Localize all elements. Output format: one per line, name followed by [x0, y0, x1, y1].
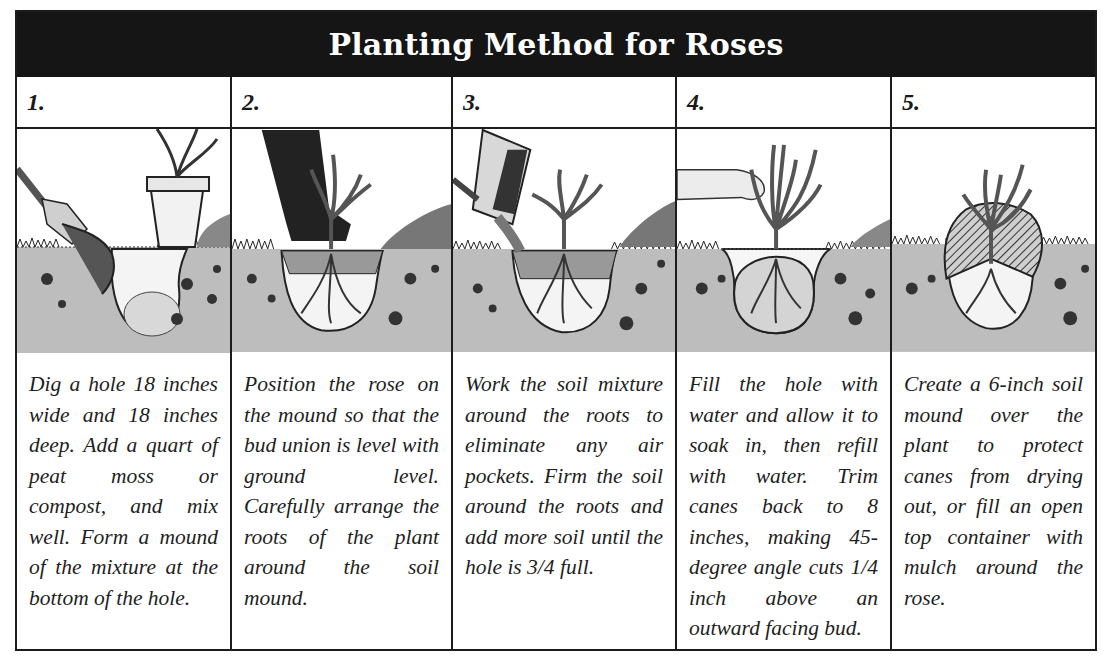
- title-bar: Planting Method for Roses: [17, 12, 1095, 77]
- step-illustration-4: [677, 129, 890, 353]
- step-number-cell: 5.: [892, 77, 1095, 129]
- step-description: Fill the hole with water and allow it to…: [677, 353, 890, 644]
- step-number-cell: 3.: [453, 77, 675, 129]
- step-number-cell: 1.: [17, 77, 230, 129]
- step-number: 3.: [463, 89, 481, 116]
- steps-row: 1.: [17, 77, 1095, 649]
- step-illustration-3: [453, 129, 675, 353]
- step-column-4: 4. Fill the hole wi: [675, 77, 890, 649]
- page-title: Planting Method for Roses: [328, 27, 783, 62]
- step-number: 2.: [242, 89, 260, 116]
- soil-mound-illustration-icon: [892, 129, 1095, 353]
- step-number-cell: 4.: [677, 77, 890, 129]
- step-column-5: 5.: [890, 77, 1095, 649]
- step-column-1: 1.: [17, 77, 230, 649]
- planting-method-table: Planting Method for Roses 1.: [15, 10, 1097, 651]
- step-description: Position the rose on the mound so that t…: [232, 353, 451, 613]
- pour-soil-illustration-icon: [453, 129, 675, 353]
- step-description: Dig a hole 18 inches wide and 18 inches …: [17, 353, 230, 613]
- step-number: 1.: [27, 89, 45, 116]
- step-number-cell: 2.: [232, 77, 451, 129]
- step-column-3: 3.: [451, 77, 675, 649]
- step-number: 4.: [687, 89, 705, 116]
- step-description: Work the soil mixture around the roots t…: [453, 353, 675, 583]
- step-illustration-1: [17, 129, 230, 353]
- water-hole-illustration-icon: [677, 129, 890, 353]
- step-illustration-2: [232, 129, 451, 353]
- step-description: Create a 6-inch soil mound over the plan…: [892, 353, 1095, 613]
- step-column-2: 2. Position the rose on the mound so tha…: [230, 77, 451, 649]
- shovel-soil-illustration-icon: [17, 129, 230, 353]
- step-number: 5.: [902, 89, 920, 116]
- step-illustration-5: [892, 129, 1095, 353]
- rose-on-mound-illustration-icon: [232, 129, 451, 353]
